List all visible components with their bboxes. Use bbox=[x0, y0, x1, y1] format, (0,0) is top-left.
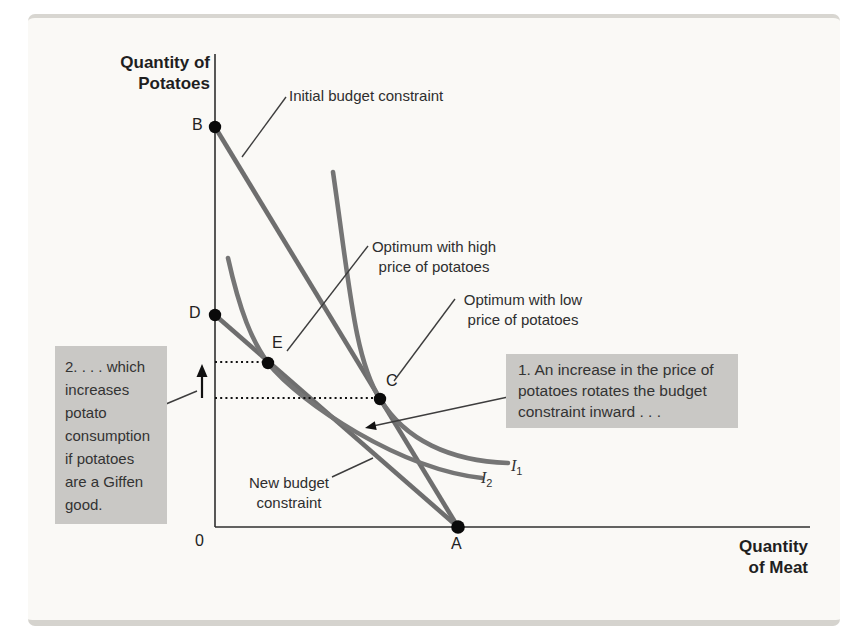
leader-callout-2 bbox=[166, 391, 197, 404]
callout-box-2: 2. . . . which increases potato consumpt… bbox=[55, 346, 167, 524]
point-B-dot bbox=[209, 121, 221, 133]
curve-label-i2-sub: 2 bbox=[486, 477, 492, 489]
point-C-dot bbox=[374, 393, 386, 405]
leader-initial-budget bbox=[242, 97, 286, 157]
point-label-C: C bbox=[386, 372, 398, 390]
point-label-A: A bbox=[451, 535, 462, 553]
point-label-E: E bbox=[272, 334, 283, 352]
curve-label-i1-sub: 1 bbox=[516, 465, 522, 477]
point-A-dot bbox=[451, 520, 465, 534]
point-E-dot bbox=[262, 357, 274, 369]
initial-budget-constraint-label: Initial budget constraint bbox=[289, 86, 443, 106]
origin-label: 0 bbox=[195, 532, 204, 550]
optimum-high-label: Optimum with high price of potatoes bbox=[363, 237, 505, 277]
leader-callout-1 bbox=[373, 397, 508, 426]
leader-callout-1-arrow-head bbox=[365, 421, 377, 430]
y-axis-title: Quantity of Potatoes bbox=[100, 52, 210, 94]
point-label-B: B bbox=[192, 116, 203, 134]
curve-label-i1: I1 bbox=[511, 457, 522, 477]
figure: Quantity of Potatoes Quantity of Meat 0 … bbox=[0, 0, 859, 629]
new-budget-constraint-label: New budget constraint bbox=[239, 473, 339, 513]
x-axis-title: Quantity of Meat bbox=[700, 536, 808, 578]
optimum-low-label: Optimum with low price of potatoes bbox=[448, 290, 598, 330]
point-label-D: D bbox=[189, 304, 201, 322]
callout-box-1: 1. An increase in the price of potatoes … bbox=[506, 354, 738, 428]
curve-label-i2: I2 bbox=[481, 469, 492, 489]
leader-optimum-low bbox=[394, 299, 455, 381]
potato-increase-arrow-head bbox=[197, 364, 208, 377]
point-D-dot bbox=[209, 309, 221, 321]
